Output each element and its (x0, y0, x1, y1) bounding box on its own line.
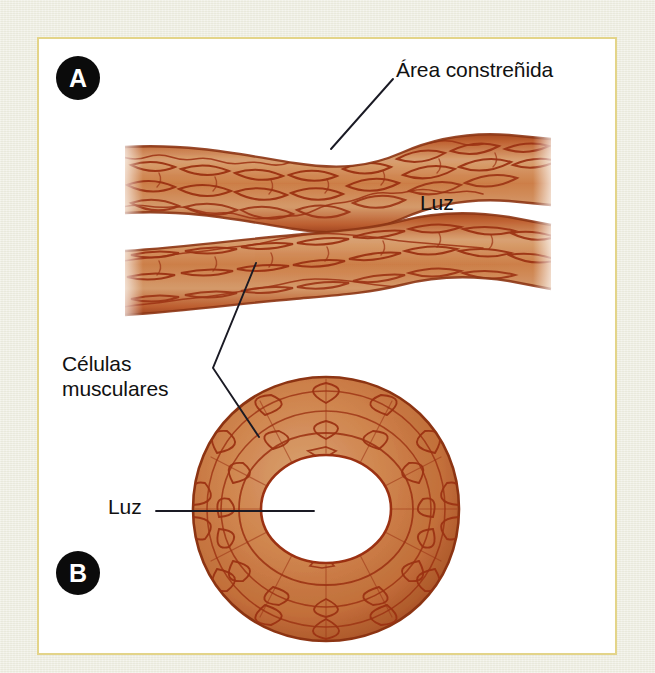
label-celulas-musculares: Células musculares (62, 351, 168, 401)
illustration-panel: A B (37, 37, 617, 655)
vessel-longitudinal-bottom (117, 213, 559, 325)
vessel-illustration (39, 39, 615, 653)
label-luz-longitudinal: Luz (420, 190, 454, 215)
panel-label-a-badge: A (56, 56, 100, 100)
vessel-cross-section-ring (192, 377, 461, 641)
figure-root: A B Área constreñida Luz Células muscula… (0, 0, 655, 673)
badge-b-letter: B (69, 561, 87, 586)
panel-label-b-badge: B (56, 551, 100, 595)
label-luz-cross: Luz (108, 494, 142, 519)
label-area-constrenida: Área constreñida (396, 57, 553, 82)
badge-a-letter: A (69, 66, 87, 91)
